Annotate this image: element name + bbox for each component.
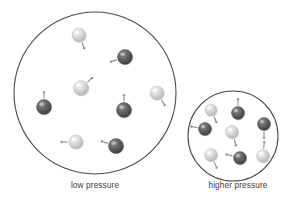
diagram-stage: low pressure higher pressure [0, 0, 288, 205]
caption-low-pressure: low pressure [0, 182, 190, 190]
pressure-particle-diagram [0, 0, 288, 205]
caption-higher-pressure: higher pressure [188, 182, 288, 190]
